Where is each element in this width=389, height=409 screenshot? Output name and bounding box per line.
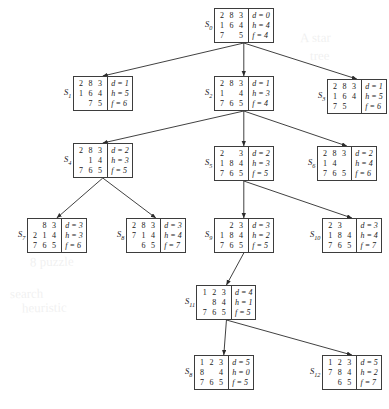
puzzle-cell: 3 [339, 149, 349, 159]
edge-s0-to-s3 [244, 43, 357, 79]
puzzle-cell: 3 [349, 82, 359, 92]
puzzle-cell: 5 [236, 169, 246, 179]
puzzle-cell: 3 [49, 221, 59, 231]
puzzle-cell: 6 [340, 92, 350, 102]
metric-d: d = 1 [252, 79, 269, 89]
puzzle-cell: 2 [227, 221, 237, 231]
puzzle-cell: 1 [217, 21, 227, 31]
search-tree-diagram: S028316475d = 0h = 4f = 4S128316475d = 1… [0, 0, 389, 409]
puzzle-cell: 3 [148, 221, 158, 231]
puzzle-cell: 1 [217, 159, 227, 169]
edge-s2-to-s6 [244, 111, 347, 146]
puzzle-cell: 6 [335, 241, 345, 251]
node-label: S12 [310, 367, 322, 378]
node-label-subscript: 8 [189, 371, 192, 378]
node-metrics: d = 1h = 3f = 4 [248, 77, 272, 110]
puzzle-cell-blank [227, 31, 237, 41]
puzzle-cell: 4 [95, 89, 105, 99]
puzzle-cell: 8 [227, 79, 237, 89]
node-metrics: d = 3h = 2f = 5 [248, 219, 272, 252]
node-box: 23184765d = 2h = 3f = 5 [214, 146, 274, 181]
node-metrics: d = 4h = 1f = 5 [231, 286, 255, 319]
puzzle-cell: 4 [236, 231, 246, 241]
puzzle-cell: 2 [217, 149, 227, 159]
tree-node-s3: S328316475d = 1h = 5f = 6 [318, 79, 387, 114]
puzzle-cell: 2 [320, 149, 330, 159]
background-ghost-text: A star [300, 30, 331, 47]
tree-node-s10: S1023184765d = 3h = 4f = 7 [310, 218, 382, 253]
puzzle-cell: 1 [40, 231, 50, 241]
metric-f: f = 6 [365, 102, 382, 112]
metric-d: d = 5 [360, 358, 377, 368]
metric-h: h = 3 [111, 156, 128, 166]
node-metrics: d = 2h = 4f = 6 [351, 147, 375, 180]
edge-s11-to-s8b [224, 320, 227, 355]
metric-h: h = 4 [355, 159, 372, 169]
metric-f: f = 4 [252, 99, 269, 109]
puzzle-cell: 7 [325, 368, 335, 378]
puzzle-cell-blank [339, 159, 349, 169]
node-metrics: d = 3h = 4f = 7 [160, 219, 184, 252]
puzzle-grid: 23184765 [323, 219, 357, 252]
puzzle-cell: 4 [148, 231, 158, 241]
puzzle-cell: 3 [335, 221, 345, 231]
puzzle-cell: 1 [139, 231, 149, 241]
puzzle-cell-blank [227, 149, 237, 159]
node-metrics: d = 2h = 3f = 5 [248, 147, 272, 180]
puzzle-cell: 1 [325, 231, 335, 241]
puzzle-grid: 23184765 [215, 147, 249, 180]
tree-node-s0: S028316475d = 0h = 4f = 4 [205, 8, 274, 43]
metric-f: f = 7 [360, 378, 377, 388]
metric-f: f = 5 [252, 241, 269, 251]
puzzle-cell: 4 [344, 231, 354, 241]
node-label: S8 [117, 230, 126, 241]
puzzle-cell: 8 [86, 79, 96, 89]
metric-h: h = 4 [164, 231, 181, 241]
puzzle-cell: 3 [95, 146, 105, 156]
puzzle-cell: 7 [217, 169, 227, 179]
background-ghost-text: heuristic [22, 300, 67, 317]
metric-f: f = 4 [252, 31, 269, 41]
metric-d: d = 4 [235, 288, 252, 298]
metric-h: h = 4 [360, 231, 377, 241]
node-label-subscript: 2 [209, 92, 212, 99]
tree-node-s5: S523184765d = 2h = 3f = 5 [205, 146, 274, 181]
puzzle-cell: 3 [236, 11, 246, 21]
tree-node-s4: S428314765d = 2h = 3f = 5 [64, 143, 133, 178]
node-label: S0 [205, 20, 214, 31]
metric-f: f = 7 [164, 241, 181, 251]
puzzle-cell: 8 [227, 231, 237, 241]
puzzle-cell: 8 [227, 159, 237, 169]
edge-s9-to-s11 [226, 253, 243, 285]
puzzle-cell: 6 [227, 241, 237, 251]
puzzle-cell: 6 [227, 99, 237, 109]
puzzle-cell: 3 [216, 358, 226, 368]
metric-d: d = 3 [164, 221, 181, 231]
background-ghost-text: search [10, 286, 43, 303]
node-metrics: d = 0h = 4f = 4 [248, 9, 272, 42]
puzzle-cell: 6 [86, 89, 96, 99]
puzzle-cell: 8 [340, 82, 350, 92]
puzzle-cell: 6 [207, 378, 217, 388]
puzzle-cell: 7 [76, 166, 86, 176]
tree-node-s6: S628314765d = 2h = 4f = 6 [308, 146, 377, 181]
metric-h: h = 3 [252, 89, 269, 99]
node-label-subscript: 3 [322, 95, 325, 102]
puzzle-cell: 5 [95, 166, 105, 176]
node-label-subscript: 10 [314, 234, 320, 241]
puzzle-cell: 2 [217, 11, 227, 21]
node-metrics: d = 5h = 0f = 5 [228, 356, 252, 389]
node-metrics: d = 3h = 4f = 7 [356, 219, 380, 252]
puzzle-cell: 3 [95, 79, 105, 89]
puzzle-cell: 6 [86, 166, 96, 176]
puzzle-cell: 2 [217, 79, 227, 89]
node-box: 12384765d = 4h = 1f = 5 [196, 285, 256, 320]
puzzle-cell: 7 [217, 99, 227, 109]
metric-h: h = 5 [365, 92, 382, 102]
tree-node-s9: S923184765d = 3h = 2f = 5 [205, 218, 274, 253]
puzzle-grid: 28314765 [318, 147, 352, 180]
node-label: S1 [64, 88, 73, 99]
puzzle-grid: 28314765 [215, 77, 249, 110]
tree-node-s12: S1212378465d = 5h = 2f = 7 [310, 355, 382, 390]
puzzle-cell: 2 [207, 358, 217, 368]
